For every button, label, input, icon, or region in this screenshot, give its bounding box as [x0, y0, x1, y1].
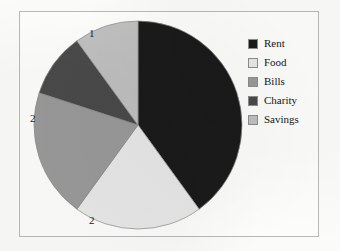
pie-slice-group: [34, 21, 242, 229]
legend-item-rent[interactable]: Rent: [248, 34, 318, 53]
legend-item-charity[interactable]: Charity: [248, 91, 318, 110]
legend-label-charity: Charity: [264, 95, 297, 106]
pie-chart: 4 2 2 1 1: [32, 19, 244, 231]
legend-label-bills: Bills: [264, 76, 285, 87]
legend-swatch-food: [248, 58, 258, 68]
legend-label-food: Food: [264, 57, 287, 68]
data-label-food: 2: [89, 215, 95, 226]
data-label-bills: 2: [30, 113, 36, 124]
chart-frame: 4 2 2 1 1 Rent Food Bills Charity: [19, 11, 319, 237]
pie-chart-plot-area: 4 2 2 1 1 Rent Food Bills Charity: [20, 12, 318, 236]
legend-item-food[interactable]: Food: [248, 53, 318, 72]
data-label-rent: 4: [235, 120, 241, 131]
chart-legend: Rent Food Bills Charity Savings: [248, 34, 318, 129]
legend-label-savings: Savings: [264, 114, 299, 125]
data-label-charity: 1: [89, 28, 95, 39]
legend-swatch-charity: [248, 96, 258, 106]
legend-item-savings[interactable]: Savings: [248, 110, 318, 129]
legend-swatch-rent: [248, 39, 258, 49]
legend-swatch-savings: [248, 115, 258, 125]
data-label-savings: 1: [151, 22, 157, 33]
legend-label-rent: Rent: [264, 38, 285, 49]
legend-swatch-bills: [248, 77, 258, 87]
legend-item-bills[interactable]: Bills: [248, 72, 318, 91]
pie-svg: [32, 19, 244, 231]
